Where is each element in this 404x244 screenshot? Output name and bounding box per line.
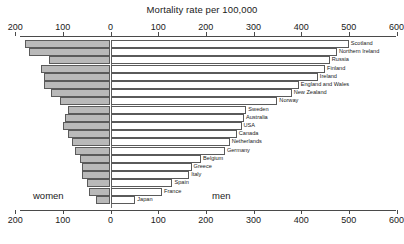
axis-tick-label: 0 xyxy=(108,22,113,32)
bar-women xyxy=(44,73,111,81)
axis-tick xyxy=(397,210,398,214)
axis-tick-label: 100 xyxy=(55,215,70,225)
chart-row: Greece xyxy=(0,163,404,171)
axis-tick xyxy=(254,32,255,36)
axis-tick xyxy=(206,210,207,214)
axis-tick xyxy=(158,210,159,214)
chart-title: Mortality rate per 100,000 xyxy=(0,4,404,15)
bar-women xyxy=(51,89,111,97)
axis-tick-label: 400 xyxy=(294,22,309,32)
axis-tick xyxy=(349,210,350,214)
country-label: Germany xyxy=(225,146,250,155)
axis-top: 2001000100200300400500600 xyxy=(0,22,404,38)
chart-row: Norway xyxy=(0,97,404,105)
bar-men xyxy=(111,138,230,146)
chart-row: Sweden xyxy=(0,106,404,114)
bar-women xyxy=(44,81,111,89)
axis-tick-label: 300 xyxy=(246,22,261,32)
chart-row: Italy xyxy=(0,171,404,179)
axis-bottom-line xyxy=(20,210,396,211)
bar-women xyxy=(87,179,111,187)
axis-tick xyxy=(397,32,398,36)
axis-tick xyxy=(111,210,112,214)
bar-men xyxy=(111,89,292,97)
bar-men xyxy=(111,56,330,64)
axis-tick xyxy=(206,32,207,36)
axis-tick-label: 200 xyxy=(198,22,213,32)
axis-tick xyxy=(349,32,350,36)
bar-men xyxy=(111,122,242,130)
bar-women xyxy=(96,196,110,204)
axis-tick xyxy=(111,32,112,36)
axis-tick xyxy=(15,210,16,214)
bar-women xyxy=(82,171,111,179)
group-caption-men: men xyxy=(212,190,230,201)
chart-row: Finland xyxy=(0,65,404,73)
axis-tick xyxy=(158,32,159,36)
bar-men xyxy=(111,155,202,163)
bar-men xyxy=(111,40,349,48)
axis-tick-label: 200 xyxy=(8,22,23,32)
axis-tick-label: 200 xyxy=(198,215,213,225)
bar-men xyxy=(111,196,136,204)
bar-men xyxy=(111,48,337,56)
country-label: Japan xyxy=(135,195,152,204)
mortality-rate-chart: Mortality rate per 100,000 2001000100200… xyxy=(0,0,404,244)
group-caption-women: women xyxy=(33,190,64,201)
axis-top-line xyxy=(20,36,396,37)
axis-tick-label: 300 xyxy=(246,215,261,225)
bar-men xyxy=(111,130,237,138)
axis-tick xyxy=(63,32,64,36)
bar-women xyxy=(89,188,110,196)
bar-men xyxy=(111,163,192,171)
bar-men xyxy=(111,106,247,114)
axis-tick xyxy=(63,210,64,214)
country-label: Norway xyxy=(277,96,298,105)
axis-tick-label: 100 xyxy=(151,22,166,32)
bar-men xyxy=(111,73,318,81)
chart-row: Spain xyxy=(0,179,404,187)
bar-women xyxy=(65,114,110,122)
bar-women xyxy=(49,56,111,64)
bar-women xyxy=(75,147,111,155)
bar-men xyxy=(111,114,244,122)
axis-bottom: 2001000100200300400500600 xyxy=(0,208,404,224)
bar-men xyxy=(111,65,326,73)
bar-women xyxy=(63,122,111,130)
axis-tick-label: 100 xyxy=(55,22,70,32)
axis-tick-label: 200 xyxy=(8,215,23,225)
axis-tick xyxy=(301,32,302,36)
chart-row: Netherlands xyxy=(0,138,404,146)
axis-tick-label: 500 xyxy=(341,215,356,225)
axis-tick-label: 600 xyxy=(389,22,404,32)
bar-women xyxy=(41,65,110,73)
plot-area: ScotlandNorthern IrelandRussiaFinlandIre… xyxy=(0,40,404,208)
bar-women xyxy=(82,163,111,171)
axis-tick-label: 600 xyxy=(389,215,404,225)
country-label: Italy xyxy=(189,170,201,179)
chart-row: Canada xyxy=(0,130,404,138)
chart-row: USA xyxy=(0,122,404,130)
axis-tick-label: 500 xyxy=(341,22,356,32)
axis-tick-label: 100 xyxy=(151,215,166,225)
bar-women xyxy=(25,40,111,48)
bar-women xyxy=(80,155,111,163)
axis-tick-label: 400 xyxy=(294,215,309,225)
axis-tick xyxy=(301,210,302,214)
bar-men xyxy=(111,81,299,89)
bar-women xyxy=(72,138,110,146)
axis-tick-label: 0 xyxy=(108,215,113,225)
bar-women xyxy=(68,106,111,114)
axis-tick xyxy=(254,210,255,214)
bar-women xyxy=(29,48,110,56)
axis-tick xyxy=(15,32,16,36)
bar-women xyxy=(60,97,110,105)
bar-women xyxy=(68,130,111,138)
chart-row: Australia xyxy=(0,114,404,122)
chart-row: England and Wales xyxy=(0,81,404,89)
chart-row: New Zealand xyxy=(0,89,404,97)
country-label: France xyxy=(162,187,181,196)
